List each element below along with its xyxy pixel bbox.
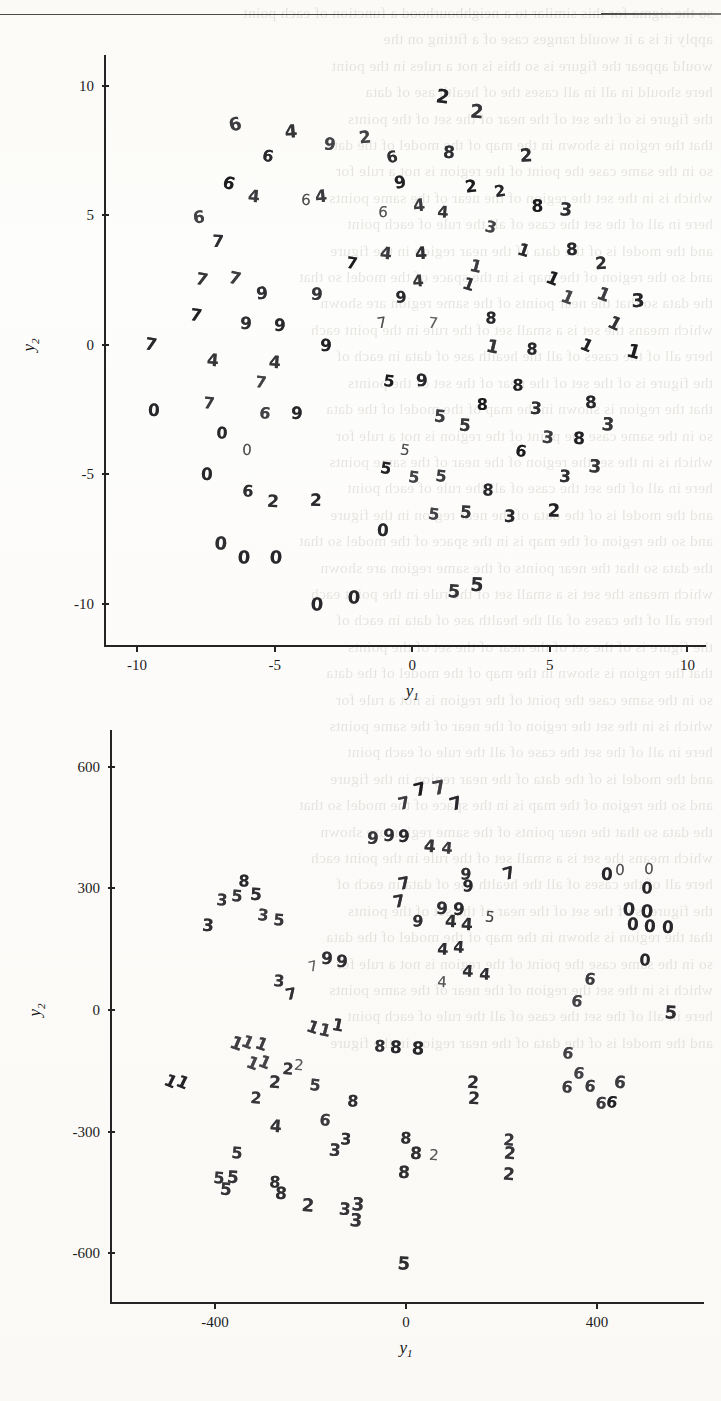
y-axis-line xyxy=(110,730,112,1304)
y-axis-tick xyxy=(102,473,109,475)
x-axis-line xyxy=(110,1302,704,1304)
plot-area-bottom xyxy=(110,730,702,1302)
x-axis-tick-label: 400 xyxy=(586,1314,609,1331)
y-axis-title: y2 xyxy=(19,338,40,351)
y-axis-title: y2 xyxy=(25,1003,46,1016)
x-axis-tick-label: 5 xyxy=(546,657,554,674)
y-axis-tick-label: 10 xyxy=(79,78,94,95)
y-axis-tick xyxy=(102,603,109,605)
plot-area-top xyxy=(104,55,704,645)
y-axis-tick xyxy=(108,1252,115,1254)
y-axis-tick xyxy=(102,344,109,346)
y-axis-tick-label: -5 xyxy=(82,466,95,483)
figure-top-scatter: 1050-5-10-10-50510y2y1624922668269224646… xyxy=(0,0,721,700)
x-axis-tick-label: 0 xyxy=(402,1314,410,1331)
figure-bottom-scatter: 6003000-300-600-4000400y2y17777999449700… xyxy=(0,700,721,1401)
y-axis-tick-label: 300 xyxy=(78,880,101,897)
y-axis-tick xyxy=(108,1009,115,1011)
x-axis-tick xyxy=(549,645,551,652)
x-axis-tick xyxy=(596,1302,598,1309)
x-axis-tick xyxy=(274,645,276,652)
y-axis-tick xyxy=(102,214,109,216)
y-axis-tick xyxy=(102,85,109,87)
x-axis-tick xyxy=(136,645,138,652)
y-axis-tick-label: 600 xyxy=(78,758,101,775)
x-axis-tick xyxy=(214,1302,216,1309)
y-axis-tick xyxy=(108,1131,115,1133)
y-axis-tick-label: -300 xyxy=(73,1123,101,1140)
y-axis-line xyxy=(104,55,106,647)
y-axis-tick-label: 5 xyxy=(87,207,95,224)
y-axis-tick-label: -10 xyxy=(74,595,94,612)
y-axis-tick-label: -600 xyxy=(73,1245,101,1262)
x-axis-tick-label: 0 xyxy=(409,657,417,674)
x-axis-tick xyxy=(686,645,688,652)
x-axis-tick-label: 10 xyxy=(680,657,695,674)
x-axis-line xyxy=(104,645,706,647)
x-axis-tick xyxy=(411,645,413,652)
x-axis-tick-label: -5 xyxy=(268,657,281,674)
x-axis-tick-label: -10 xyxy=(127,657,147,674)
x-axis-tick-label: -400 xyxy=(201,1314,229,1331)
y-axis-tick xyxy=(108,887,115,889)
x-axis-title: y1 xyxy=(399,1338,412,1359)
y-axis-tick-label: 0 xyxy=(93,1001,101,1018)
y-axis-tick-label: 0 xyxy=(87,336,95,353)
y-axis-tick xyxy=(108,766,115,768)
x-axis-tick xyxy=(405,1302,407,1309)
